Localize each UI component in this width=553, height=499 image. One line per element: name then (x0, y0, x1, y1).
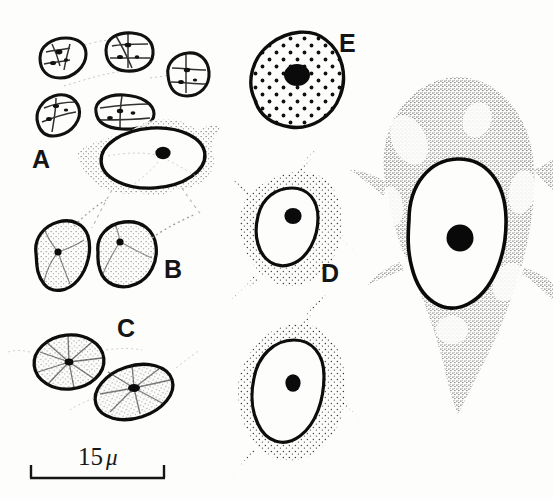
panel-c-cells (8, 331, 200, 429)
panel-a-mitotic-cells (37, 33, 222, 228)
panel-a-spread-cell (77, 119, 222, 228)
panel-b-cell (36, 200, 106, 290)
panel-d-cell-upper (224, 142, 362, 300)
panel-label-b: B (164, 257, 183, 282)
mitotic-cell (106, 33, 153, 71)
figure-plate: A B C D E 15μ (0, 0, 553, 499)
panel-d-cells (218, 142, 366, 478)
panel-e-round-cell (251, 32, 344, 127)
cell-illustration (0, 0, 553, 499)
large-spread-cell (350, 77, 553, 414)
scale-bar-value: 15 (78, 443, 103, 470)
scale-bar-caption: 15μ (78, 444, 118, 469)
scale-bar-unit: μ (103, 445, 118, 470)
panel-label-e: E (339, 31, 356, 56)
mitotic-cell (37, 95, 80, 136)
mitotic-cell (40, 38, 86, 78)
panel-d-cell-lower (218, 294, 366, 478)
panel-label-a: A (32, 147, 51, 172)
mitotic-cell (168, 53, 209, 96)
panel-label-c: C (117, 316, 136, 341)
panel-label-d: D (321, 261, 340, 286)
